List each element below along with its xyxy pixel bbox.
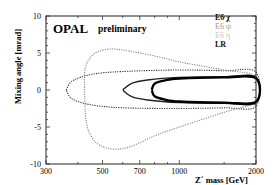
chart-svg: 1050-5-1030050070010002000 OPAL prelimin… [0, 0, 275, 185]
experiment-label: OPAL [53, 21, 88, 36]
y-tick-label: 10 [33, 12, 41, 21]
x-tick-label: 2000 [248, 167, 264, 176]
legend: E6 χ E6 ψ E6 η LR [215, 13, 231, 49]
y-tick-label: -5 [34, 123, 41, 132]
x-tick-label: 300 [40, 167, 52, 176]
x-tick-label: 700 [134, 167, 146, 176]
legend-item-e6-psi: E6 ψ [215, 22, 231, 31]
curve-lr [152, 76, 260, 104]
x-axis-label: Z´ mass [GeV] [195, 175, 248, 185]
y-tick-label: 0 [37, 86, 41, 95]
exclusion-chart: 1050-5-1030050070010002000 OPAL prelimin… [0, 0, 275, 185]
status-label: preliminary [98, 24, 147, 34]
y-axis-label: Mixing angle [mrad] [13, 29, 23, 104]
legend-item-e6-chi: E6 χ [215, 13, 230, 22]
curve-e6- [123, 75, 260, 104]
y-tick-label: 5 [37, 49, 41, 58]
x-tick-label: 500 [97, 167, 109, 176]
curves-layer [66, 49, 260, 149]
legend-item-lr: LR [215, 40, 226, 49]
legend-item-e6-eta: E6 η [215, 31, 230, 40]
curve-e6- [84, 49, 260, 149]
x-tick-label: 1000 [171, 167, 187, 176]
